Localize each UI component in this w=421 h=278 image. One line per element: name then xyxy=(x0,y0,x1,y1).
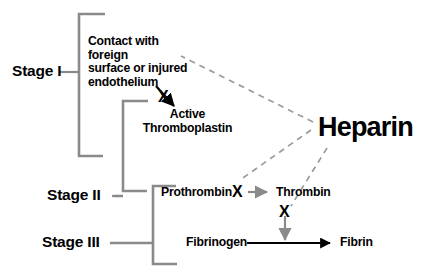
stage-1-label: Stage I xyxy=(12,62,61,79)
node-active-thromboplastin-line-1: Active xyxy=(125,108,250,122)
node-prothrombin: Prothrombin xyxy=(161,186,232,200)
node-fibrin: Fibrin xyxy=(340,236,373,250)
node-contact-line-1: Contact with foreign xyxy=(88,35,196,62)
node-heparin: Heparin xyxy=(318,112,413,142)
stage-3-label: Stage III xyxy=(42,233,100,250)
dashed-heparin-to-prothrombin xyxy=(240,130,311,180)
coagulation-cascade-diagram: Stage I Stage II Stage III Contact with … xyxy=(0,0,421,278)
node-contact: Contact with foreign surface or injured … xyxy=(88,35,196,90)
node-active-thromboplastin-line-2: Thromboplastin xyxy=(125,122,250,136)
x-mark-prothrombin: X xyxy=(232,183,242,201)
stage-2-label: Stage II xyxy=(47,186,101,203)
node-active-thromboplastin: Active Thromboplastin xyxy=(125,108,250,135)
node-contact-line-2: surface or injured xyxy=(88,62,196,76)
x-mark-thrombin-fibrinogen: X xyxy=(279,203,289,221)
node-fibrinogen: Fibrinogen xyxy=(186,236,247,250)
x-mark-thromboplastin: X xyxy=(158,88,168,106)
node-contact-line-3: endothelium xyxy=(88,76,196,90)
node-thrombin: Thrombin xyxy=(276,186,331,200)
